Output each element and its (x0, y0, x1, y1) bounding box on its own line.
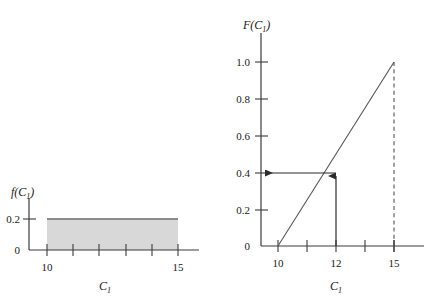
two-panel-uniform-distribution-figure: 0.2 0 10 15 f(C1) C1 (0, 0, 436, 305)
cdf-y-ticklabel-0.2: 0.2 (236, 204, 250, 216)
cdf-x-ticklabel-10: 10 (273, 257, 285, 269)
pdf-y-axis-title: f(C1) (11, 185, 34, 201)
pdf-x-axis-title: C1 (99, 279, 111, 295)
pdf-y-ticklabel-0.2: 0.2 (6, 213, 20, 225)
pdf-shaded-region (47, 219, 178, 250)
cdf-y-ticklabel-0: 0 (245, 240, 251, 252)
cdf-y-axis-title: F(C1) (242, 18, 270, 34)
pdf-x-axis-title-subscript: 1 (107, 286, 111, 295)
pdf-x-ticklabel-15: 15 (173, 261, 185, 273)
figure-container: 0.2 0 10 15 f(C1) C1 (0, 0, 436, 305)
cdf-x-ticklabel-12: 12 (331, 257, 342, 269)
pdf-panel: 0.2 0 10 15 f(C1) C1 (6, 185, 199, 295)
pdf-x-ticklabel-10: 10 (42, 261, 54, 273)
cdf-panel: 1.0 0.8 0.6 0.4 0.2 0 10 12 15 F(C1) C1 (236, 18, 424, 295)
cdf-y-axis-title-main: F(C (242, 18, 263, 32)
cdf-y-ticklabel-0.4: 0.4 (236, 167, 250, 179)
cdf-x-axis-title-subscript: 1 (338, 286, 342, 295)
cdf-x-ticklabel-15: 15 (389, 257, 401, 269)
pdf-y-ticklabel-0: 0 (15, 244, 21, 256)
pdf-y-axis-title-close: ) (29, 185, 34, 199)
cdf-y-ticklabel-1.0: 1.0 (236, 56, 250, 68)
cdf-y-ticklabel-0.6: 0.6 (236, 130, 250, 142)
cdf-y-ticklabel-0.8: 0.8 (236, 93, 250, 105)
cdf-y-axis-title-close: ) (265, 18, 270, 32)
pdf-y-axis-title-main: f(C (11, 185, 27, 199)
cdf-x-axis-title: C1 (330, 279, 342, 295)
